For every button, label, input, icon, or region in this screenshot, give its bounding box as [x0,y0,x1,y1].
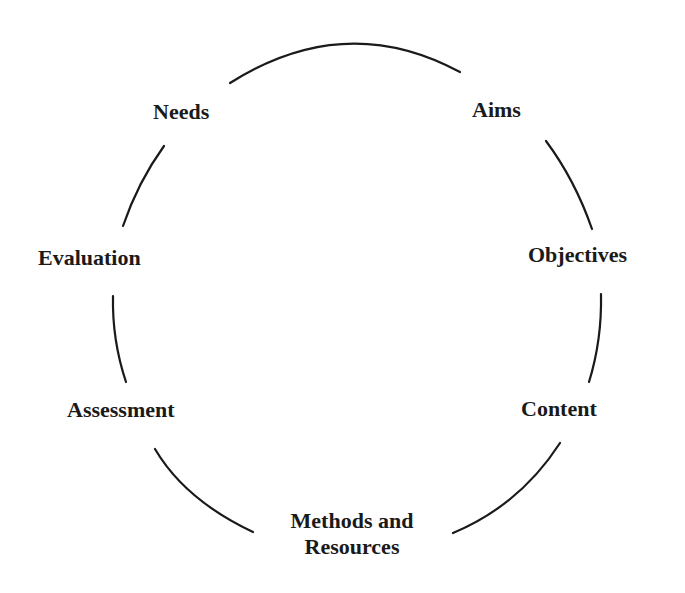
node-needs: Needs [153,99,209,125]
node-assessment: Assessment [67,397,175,423]
node-methods-and-resources: Methods and Resources [262,508,442,560]
arc-methods-assessment [155,449,253,532]
node-aims: Aims [472,97,521,123]
node-methods-line1: Methods and [262,508,442,534]
node-objectives: Objectives [528,242,627,268]
node-methods-line2: Resources [262,534,442,560]
node-content: Content [521,396,597,422]
cycle-arcs [0,0,685,593]
arc-evaluation-needs [123,146,164,226]
curriculum-cycle-diagram: Needs Aims Objectives Content Methods an… [0,0,685,593]
arc-objectives-content [589,294,601,382]
arc-needs-aims [230,44,460,83]
arc-content-methods [453,443,560,533]
arc-assessment-evaluation [113,296,126,382]
arc-aims-objectives [546,141,592,229]
node-evaluation: Evaluation [38,245,141,271]
